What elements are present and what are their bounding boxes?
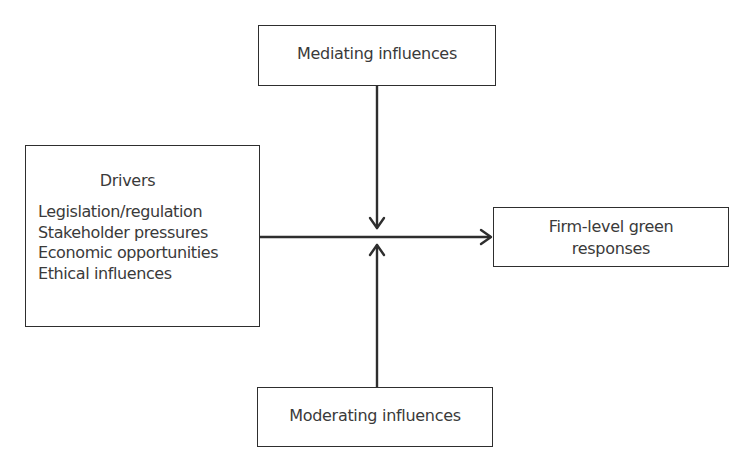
outcome-label-line2: responses bbox=[494, 238, 728, 260]
moderating-influences-box: Moderating influences bbox=[257, 387, 493, 447]
drivers-box: Drivers Legislation/regulation Stakehold… bbox=[25, 145, 260, 327]
driver-item: Ethical influences bbox=[38, 264, 218, 285]
outcome-label: Firm-level green responses bbox=[494, 216, 728, 260]
driver-item: Legislation/regulation bbox=[38, 202, 218, 223]
moderating-influences-label: Moderating influences bbox=[258, 406, 492, 426]
driver-item: Economic opportunities bbox=[38, 243, 218, 264]
outcome-label-line1: Firm-level green bbox=[494, 216, 728, 238]
mediating-influences-box: Mediating influences bbox=[258, 25, 496, 86]
mediating-influences-label: Mediating influences bbox=[259, 44, 495, 64]
drivers-title: Drivers bbox=[26, 171, 259, 190]
drivers-list: Legislation/regulation Stakeholder press… bbox=[38, 202, 218, 284]
driver-item: Stakeholder pressures bbox=[38, 223, 218, 244]
firm-level-green-responses-box: Firm-level green responses bbox=[493, 207, 729, 267]
